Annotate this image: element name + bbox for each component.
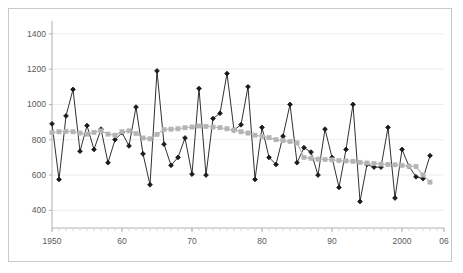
data-point-marker <box>246 131 250 135</box>
x-axis-tick-label: 70 <box>187 236 197 246</box>
data-point-marker <box>337 158 341 162</box>
data-point-marker <box>197 124 201 128</box>
data-point-marker <box>218 126 222 130</box>
data-point-marker <box>365 161 369 165</box>
data-point-marker <box>232 128 236 132</box>
x-axis-tick-label: 80 <box>257 236 267 246</box>
data-point-marker <box>316 157 320 161</box>
chart-frame: 400600800100012001400195060708090200006 <box>8 8 452 262</box>
data-point-marker <box>267 136 271 140</box>
data-point-marker <box>428 180 432 184</box>
plot-area <box>52 25 444 228</box>
x-axis-tick-label: 90 <box>327 236 337 246</box>
data-point-marker <box>148 137 152 141</box>
data-point-marker <box>190 125 194 129</box>
y-axis-tick-label: 400 <box>32 205 46 215</box>
data-point-marker <box>372 161 376 165</box>
data-point-marker <box>400 163 404 167</box>
data-point-marker <box>253 133 257 137</box>
data-point-marker <box>113 133 117 137</box>
data-point-marker <box>302 155 306 159</box>
data-point-marker <box>281 139 285 143</box>
data-point-marker <box>78 131 82 135</box>
data-point-marker <box>330 158 334 162</box>
data-point-marker <box>85 132 89 136</box>
x-axis-tick-label: 2000 <box>393 236 412 246</box>
x-axis-tick-label: 06 <box>439 236 449 246</box>
line-chart: 400600800100012001400195060708090200006 <box>9 9 451 261</box>
data-point-marker <box>288 139 292 143</box>
data-point-marker <box>106 132 110 136</box>
data-point-marker <box>64 129 68 133</box>
data-point-marker <box>344 159 348 163</box>
data-point-marker <box>393 163 397 167</box>
data-point-marker <box>358 160 362 164</box>
data-point-marker <box>176 127 180 131</box>
data-point-marker <box>407 164 411 168</box>
data-point-marker <box>120 130 124 134</box>
y-axis-tick-label: 800 <box>32 135 46 145</box>
data-point-marker <box>211 125 215 129</box>
data-point-marker <box>155 132 159 136</box>
data-point-marker <box>351 159 355 163</box>
data-point-marker <box>141 136 145 140</box>
data-point-marker <box>57 130 61 134</box>
y-axis-tick-label: 1200 <box>27 64 46 74</box>
data-point-marker <box>379 162 383 166</box>
data-point-marker <box>183 126 187 130</box>
data-point-marker <box>127 129 131 133</box>
data-point-marker <box>421 173 425 177</box>
data-point-marker <box>323 157 327 161</box>
data-point-marker <box>414 164 418 168</box>
data-point-marker <box>99 129 103 133</box>
data-point-marker <box>50 131 54 135</box>
data-point-marker <box>71 130 75 134</box>
data-point-marker <box>134 131 138 135</box>
y-axis-tick-label: 1400 <box>27 29 46 39</box>
data-point-marker <box>169 127 173 131</box>
data-point-marker <box>295 141 299 145</box>
data-point-marker <box>274 138 278 142</box>
data-point-marker <box>204 124 208 128</box>
data-point-marker <box>260 134 264 138</box>
y-axis-tick-label: 1000 <box>27 99 46 109</box>
data-point-marker <box>309 156 313 160</box>
data-point-marker <box>92 130 96 134</box>
y-axis-tick-label: 600 <box>32 170 46 180</box>
data-point-marker <box>386 162 390 166</box>
x-axis-tick-label: 60 <box>117 236 127 246</box>
data-point-marker <box>239 130 243 134</box>
x-axis-tick-label: 1950 <box>43 236 62 246</box>
data-point-marker <box>225 127 229 131</box>
data-point-marker <box>162 127 166 131</box>
